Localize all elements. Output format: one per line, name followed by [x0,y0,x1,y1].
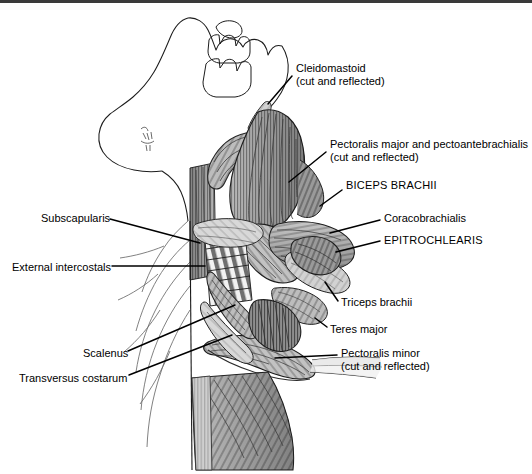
label-triceps-brachii: Triceps brachii [341,296,412,309]
pectoralis-major-muscle [230,110,324,233]
label-teres-major-name: Teres major [330,323,387,335]
label-epitrochlearis-name: EPITROCHLEARIS [384,234,483,246]
label-subscapularis-name: Subscapularis [41,212,110,224]
thoracic-contour [118,221,190,447]
label-scalenus-name: Scalenus [83,347,128,359]
label-pectoralis-minor-qualifier: (cut and reflected) [341,360,430,373]
label-pectoralis-major: Pectoralis major and pectoantebrachialis… [330,138,528,164]
label-coracobrachialis-name: Coracobrachialis [384,212,466,224]
label-external-intercostals-name: External intercostals [12,261,111,273]
label-external-intercostals: External intercostals [12,261,111,274]
palate-outline [203,21,251,97]
label-cleidomastoid: Cleidomastoid(cut and reflected) [296,62,385,88]
label-pectoralis-minor: Pectoralis minor(cut and reflected) [341,347,430,373]
label-biceps-brachii: BICEPS BRACHII [346,179,437,192]
label-epitrochlearis: EPITROCHLEARIS [384,234,483,247]
label-triceps-brachii-name: Triceps brachii [341,296,412,308]
label-pectoralis-major-qualifier: (cut and reflected) [330,151,528,164]
label-cleidomastoid-qualifier: (cut and reflected) [296,75,385,88]
label-cleidomastoid-name: Cleidomastoid [296,62,366,74]
label-biceps-brachii-name: BICEPS BRACHII [346,179,437,191]
leader-cleidomastoid [268,76,292,104]
lower-trunk-muscles [192,372,294,470]
leader-coracobrachialis [330,220,380,233]
figure-page: Cleidomastoid(cut and reflected)Pectoral… [0,0,532,474]
label-pectoralis-major-name: Pectoralis major and pectoantebrachialis [330,138,528,150]
label-transversus-costarum-name: Transversus costarum [19,372,127,384]
label-teres-major: Teres major [330,323,387,336]
label-scalenus: Scalenus [83,347,128,360]
label-pectoralis-minor-name: Pectoralis minor [341,347,420,359]
label-transversus-costarum: Transversus costarum [19,372,127,385]
cheek-muscle-sketch [141,127,154,151]
label-subscapularis: Subscapularis [41,212,110,225]
label-coracobrachialis: Coracobrachialis [384,212,466,225]
